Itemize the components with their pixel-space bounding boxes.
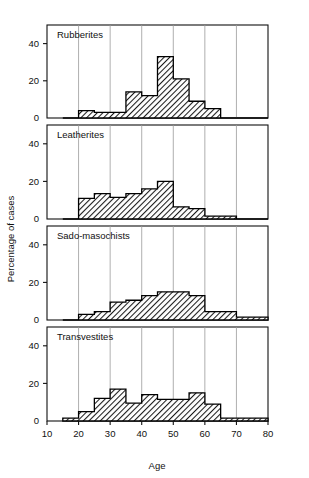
xtick-label-20: 20 [73, 428, 84, 439]
ytick-label-0: 0 [34, 415, 39, 426]
xtick-label-60: 60 [200, 428, 211, 439]
panel-title-3: Transvestites [57, 331, 113, 342]
ytick-label-40: 40 [28, 239, 39, 250]
ytick-label-20: 20 [28, 378, 39, 389]
xtick-label-70: 70 [231, 428, 242, 439]
ytick-label-40: 40 [28, 340, 39, 351]
ytick-label-0: 0 [34, 112, 39, 123]
xtick-label-80: 80 [263, 428, 274, 439]
ytick-label-0: 0 [34, 314, 39, 325]
ytick-label-20: 20 [28, 277, 39, 288]
xtick-label-40: 40 [136, 428, 147, 439]
ytick-label-40: 40 [28, 138, 39, 149]
y-axis-title: Percentage of cases [5, 195, 16, 282]
ytick-label-40: 40 [28, 38, 39, 49]
ytick-label-20: 20 [28, 176, 39, 187]
figure-histogram-panels: 02040Rubberites02040Leatherites02040Sado… [0, 0, 309, 478]
panel-title-1: Leatherites [57, 129, 104, 140]
x-axis-title: Age [149, 460, 166, 471]
xtick-label-10: 10 [42, 428, 53, 439]
chart-svg: 02040Rubberites02040Leatherites02040Sado… [0, 0, 309, 478]
xtick-label-30: 30 [105, 428, 116, 439]
panel-title-0: Rubberites [57, 29, 103, 40]
ytick-label-0: 0 [34, 213, 39, 224]
ytick-label-20: 20 [28, 75, 39, 86]
panel-title-2: Sado-masochists [57, 230, 130, 241]
xtick-label-50: 50 [168, 428, 179, 439]
